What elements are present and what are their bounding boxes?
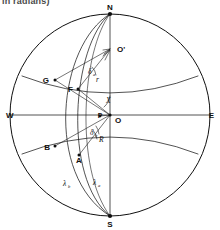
svg-text:λ: λ	[92, 178, 97, 187]
svg-text:b: b	[68, 184, 71, 189]
label-pole-aux-oprime: O'	[117, 45, 125, 54]
dot-center	[108, 113, 111, 116]
svg-text:a: a	[98, 183, 101, 188]
label-radius-cap-r: R	[98, 135, 104, 144]
label-delta-upper: δ a	[88, 67, 96, 77]
dot-g	[54, 79, 57, 82]
label-angle-x: X	[105, 96, 111, 105]
label-lambda-b: λ b	[62, 179, 71, 189]
label-east: E	[209, 111, 215, 120]
label-lambda-a: λ a	[92, 178, 101, 188]
label-delta-lower: δ b	[90, 128, 98, 138]
svg-text:δ: δ	[90, 128, 94, 137]
sphere-diagram: N S W E O O' G F B A P δ a δ b X r R λ b…	[0, 0, 220, 230]
arrowhead-oprime-b	[103, 50, 110, 60]
dot-f	[77, 88, 80, 91]
label-point-g: G	[43, 76, 49, 85]
label-south: S	[107, 220, 113, 229]
dot-south	[108, 214, 112, 218]
label-point-f: F	[68, 85, 73, 94]
svg-text:λ: λ	[62, 179, 67, 188]
label-north: N	[107, 3, 113, 12]
label-west: W	[6, 111, 14, 120]
label-point-p: P	[98, 112, 103, 119]
line-oprime-to-g	[55, 49, 110, 80]
svg-text:δ: δ	[88, 67, 92, 76]
label-radius-r: r	[96, 75, 99, 84]
label-point-a: A	[76, 156, 82, 165]
dot-north	[108, 12, 112, 16]
figure-root: in radians)	[0, 0, 220, 230]
label-point-b: B	[44, 143, 50, 152]
dot-b	[54, 145, 57, 148]
chord-o-to-g	[55, 80, 110, 115]
label-center-o: O	[115, 116, 121, 125]
